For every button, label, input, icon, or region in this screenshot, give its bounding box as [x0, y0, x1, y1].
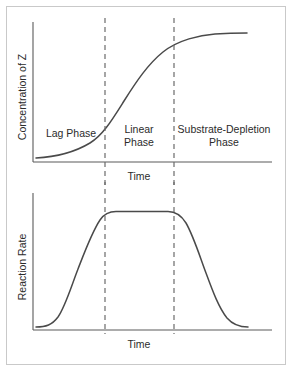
figure-root: Concentration of Z Time Lag Phase Linear…: [0, 0, 293, 372]
bottom-y-axis-label: Reaction Rate: [16, 234, 28, 301]
phase-label-linear-line2: Phase: [124, 136, 154, 148]
phase-label-lag: Lag Phase: [46, 127, 96, 139]
phase-label-depletion-line2: Phase: [209, 136, 239, 148]
top-x-axis-label: Time: [128, 170, 151, 182]
top-y-axis-label: Concentration of Z: [16, 53, 28, 140]
phase-label-depletion-line1: Substrate-Depletion: [178, 123, 271, 135]
reaction-rate-vs-time-chart: Reaction Rate Time: [0, 182, 293, 372]
concentration-vs-time-chart: Concentration of Z Time Lag Phase Linear…: [0, 0, 293, 190]
reaction-rate-curve: [36, 212, 248, 328]
bottom-x-axis-label: Time: [128, 338, 151, 350]
phase-label-linear-line1: Linear: [124, 123, 154, 135]
